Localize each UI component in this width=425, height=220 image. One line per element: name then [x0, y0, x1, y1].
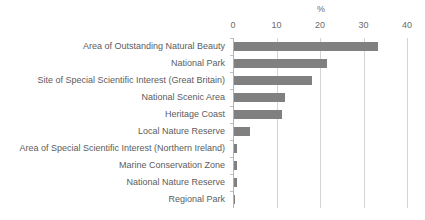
bar [234, 42, 378, 51]
bar-rows [233, 38, 407, 208]
x-tick-label-20: 20 [308, 20, 332, 30]
bar-row [233, 157, 407, 174]
bar-chart: % 010203040 Area of Outstanding Natural … [0, 0, 425, 220]
y-axis-category-labels: Area of Outstanding Natural BeautyNation… [0, 38, 229, 208]
bar-row [233, 106, 407, 123]
bar-row [233, 191, 407, 208]
category-label: National Scenic Area [0, 89, 229, 106]
x-tick-label-10: 10 [265, 20, 289, 30]
category-label: Marine Conservation Zone [0, 157, 229, 174]
bar [234, 144, 237, 153]
bar [234, 195, 235, 204]
x-tick-label-40: 40 [395, 20, 419, 30]
category-label: Regional Park [0, 191, 229, 208]
category-label: Area of Outstanding Natural Beauty [0, 38, 229, 55]
bar-row [233, 123, 407, 140]
bar [234, 93, 285, 102]
bar-row [233, 38, 407, 55]
axis-title-percent: % [311, 4, 331, 14]
bar-row [233, 55, 407, 72]
bar [234, 59, 327, 68]
y-tick-mark [230, 55, 233, 56]
bar-row [233, 72, 407, 89]
y-tick-mark [230, 140, 233, 141]
bar [234, 127, 250, 136]
y-tick-mark [230, 123, 233, 124]
x-tick-label-30: 30 [352, 20, 376, 30]
category-label: Site of Special Scientific Interest (Gre… [0, 72, 229, 89]
category-label: Area of Special Scientific Interest (Nor… [0, 140, 229, 157]
y-tick-mark [230, 157, 233, 158]
y-tick-mark [230, 38, 233, 39]
gridline-40 [407, 38, 408, 208]
category-label: Local Nature Reserve [0, 123, 229, 140]
bar-row [233, 174, 407, 191]
category-label: National Park [0, 55, 229, 72]
y-tick-mark [230, 89, 233, 90]
bar [234, 110, 282, 119]
y-tick-mark [230, 72, 233, 73]
x-axis-tick-labels: 010203040 [0, 20, 425, 34]
category-label: Heritage Coast [0, 106, 229, 123]
y-tick-mark [230, 106, 233, 107]
y-tick-mark [230, 191, 233, 192]
bar-row [233, 140, 407, 157]
bar-row [233, 89, 407, 106]
bar [234, 178, 237, 187]
category-label: National Nature Reserve [0, 174, 229, 191]
bar [234, 161, 237, 170]
plot-area [233, 38, 407, 208]
x-tick-label-0: 0 [221, 20, 245, 30]
bar [234, 76, 312, 85]
y-tick-mark [230, 174, 233, 175]
